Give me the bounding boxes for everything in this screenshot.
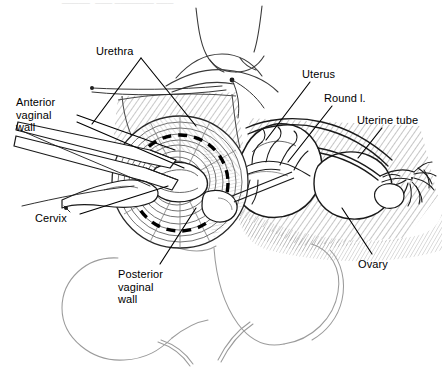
illustration-canvas [0,0,444,377]
mons-pubis [166,6,278,92]
label-urethra: Urethra [96,45,133,58]
body-outlines [62,244,344,366]
label-cervix: Cervix [35,212,67,225]
label-anterior-vaginal-wall: Anterior vaginal wall [16,96,55,134]
label-uterine-tube: Uterine tube [357,114,418,127]
label-ovary: Ovary [358,258,388,271]
label-posterior-vaginal-wall: Posterior vaginal wall [118,268,163,306]
ovary-body [375,184,404,209]
label-uterus: Uterus [302,68,335,81]
anatomical-figure: _____ ___ _______ ___ [0,0,444,377]
instrument-tip [202,190,237,222]
label-round-ligament: Round l. [324,92,366,105]
